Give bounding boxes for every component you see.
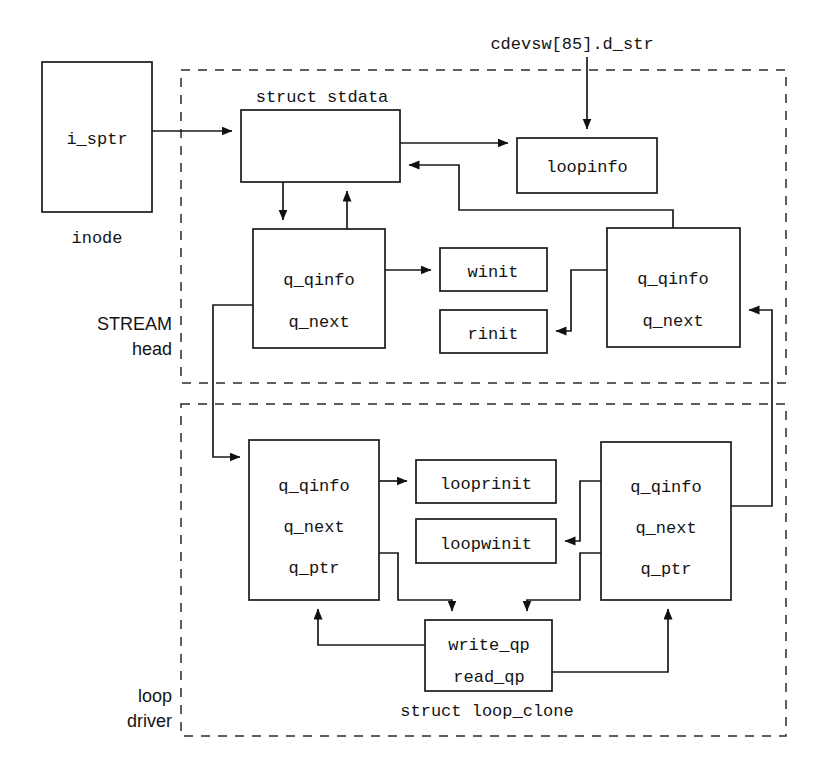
struct-loop-clone-label: struct loop_clone (400, 702, 573, 721)
field-loopinfo: loopinfo (546, 158, 628, 177)
region-stream-head-label-line1: STREAM (97, 314, 172, 334)
field-write-qp: write_qp (448, 636, 530, 655)
field-ld-rq-ptr: q_ptr (640, 560, 691, 579)
region-loop-driver-label-line1: loop (138, 686, 172, 706)
cdevsw-label: cdevsw[85].d_str (490, 35, 653, 54)
streams-loop-driver-diagram: STREAM head loop driver cdevsw[85].d_str… (0, 0, 823, 783)
field-ld-wq-next: q_next (283, 518, 344, 537)
field-ld-rq-next: q_next (635, 519, 696, 538)
field-sh-rq-qinfo: q_qinfo (637, 270, 708, 289)
field-sh-wq-next: q_next (288, 313, 349, 332)
field-looprinit: looprinit (440, 475, 532, 494)
field-ld-rq-qinfo: q_qinfo (630, 478, 701, 497)
field-rinit: rinit (467, 325, 518, 344)
field-read-qp: read_qp (453, 668, 524, 687)
region-loop-driver-label-line2: driver (127, 711, 172, 731)
field-sh-wq-qinfo: q_qinfo (283, 271, 354, 290)
field-sh-rq-next: q_next (642, 312, 703, 331)
field-loopwinit: loopwinit (440, 535, 532, 554)
field-ld-wq-ptr: q_ptr (288, 559, 339, 578)
field-winit: winit (467, 263, 518, 282)
struct-stdata-label: struct stdata (256, 88, 389, 107)
region-stream-head-label-line2: head (132, 339, 172, 359)
box-stdata (241, 110, 400, 182)
inode-label: inode (71, 229, 122, 248)
field-ld-wq-qinfo: q_qinfo (278, 477, 349, 496)
field-i-sptr: i_sptr (66, 130, 127, 149)
